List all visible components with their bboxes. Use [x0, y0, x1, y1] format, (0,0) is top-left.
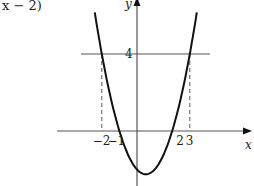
x-tick-label: −1 — [107, 134, 125, 148]
parabola-graph: −2−1234xy — [0, 0, 254, 186]
parabola-curve — [95, 12, 197, 174]
x-axis-label: x — [245, 138, 252, 152]
y-tick-label: 4 — [125, 47, 133, 61]
x-tick-label: 3 — [186, 134, 194, 148]
y-axis-label: y — [124, 0, 132, 11]
x-axis-arrow-icon — [243, 128, 252, 135]
x-tick-label: 2 — [176, 134, 184, 148]
axes — [57, 0, 252, 186]
y-axis-arrow-icon — [134, 0, 141, 6]
guide-lines — [81, 54, 210, 131]
